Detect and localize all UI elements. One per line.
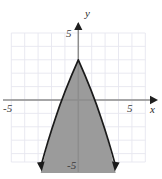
y-axis-arrowhead	[74, 22, 82, 30]
y-axis-name-label: y	[85, 8, 90, 19]
x-axis-name-label: x	[150, 104, 155, 115]
graph-figure: 5 -5 5 -5 x y	[0, 0, 162, 179]
x-axis-tick-label-positive: 5	[127, 103, 133, 114]
coordinate-plane	[0, 0, 162, 179]
y-axis-tick-label-negative: -5	[67, 160, 76, 171]
x-axis-tick-label-negative: -5	[3, 103, 12, 114]
y-axis-tick-label-positive: 5	[66, 28, 72, 39]
